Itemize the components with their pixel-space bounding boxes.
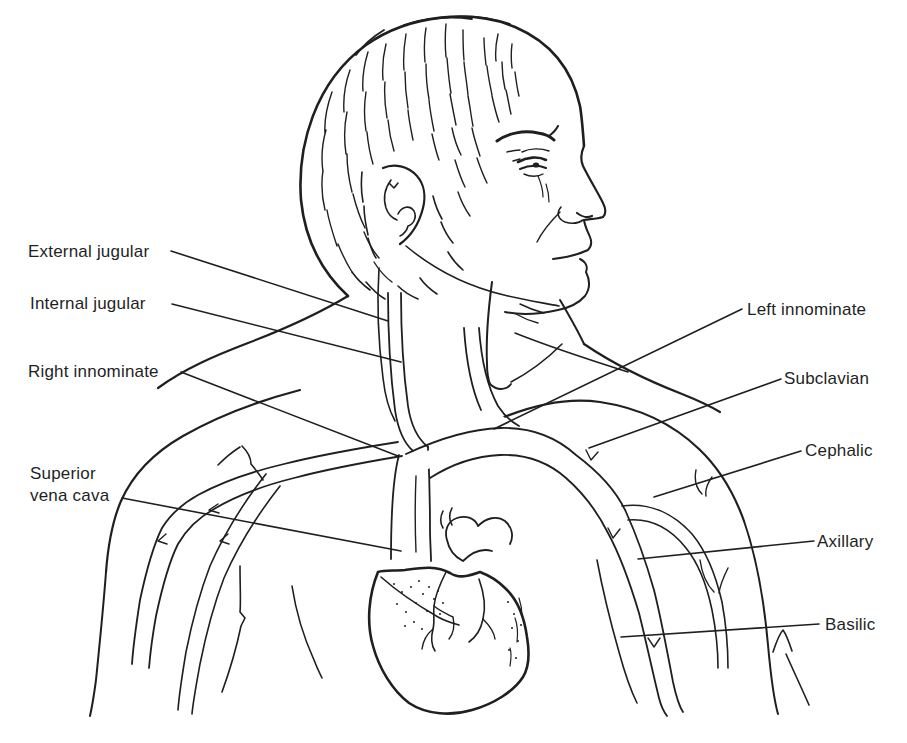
nostril — [577, 213, 592, 217]
leader-external-jugular — [171, 251, 388, 321]
label-right-innominate: Right innominate — [28, 362, 159, 381]
throat-line — [487, 282, 492, 384]
label-axillary: Axillary — [817, 532, 874, 551]
label-cephalic: Cephalic — [805, 441, 873, 460]
heart-drawing — [369, 508, 528, 714]
great-vessel-hatch-marks — [441, 508, 452, 528]
right-arm-outer-edge — [744, 521, 778, 714]
eye-iris — [533, 162, 539, 167]
ear-outer — [383, 166, 424, 244]
vena-cava-seam — [415, 476, 416, 552]
leader-internal-jugular — [172, 304, 401, 362]
right-subclavian-vein-lower-line — [149, 456, 402, 668]
leader-axillary — [638, 541, 814, 559]
label-left-innominate: Left innominate — [747, 300, 866, 319]
left-arm-inner-edge — [222, 566, 245, 692]
eyelid-crease — [522, 149, 549, 152]
label-subclavian: Subclavian — [784, 369, 869, 388]
leader-right-innominate — [181, 372, 398, 456]
label-internal-jugular: Internal jugular — [30, 294, 146, 313]
right-elbow-crease — [773, 630, 809, 705]
anatomy-diagram-page: External jugular Internal jugular Right … — [0, 0, 907, 743]
left-chest-fold — [292, 586, 322, 678]
great-vessels-stumps — [446, 517, 512, 561]
clavicle-notch — [490, 384, 511, 389]
eyebrow — [497, 132, 554, 141]
label-superior-vena-cava-line2: vena cava — [30, 486, 110, 505]
head-drawing — [300, 16, 605, 323]
eye-lash-line — [520, 166, 546, 169]
jawline — [406, 246, 559, 306]
label-external-jugular: External jugular — [28, 242, 149, 261]
label-superior-vena-cava-line1: Superior — [30, 464, 96, 483]
nasolabial-fold — [537, 212, 560, 242]
eyebrow-flick — [549, 126, 558, 136]
heart-outline — [369, 568, 528, 714]
face-profile-mouth-chin — [505, 220, 591, 314]
eye-upper-lid — [518, 158, 546, 162]
venous-anatomy-figure: External jugular Internal jugular Right … — [0, 0, 907, 743]
label-basilic: Basilic — [825, 615, 876, 634]
right-sternomastoid-line — [511, 344, 562, 382]
neck-base-contour — [515, 333, 628, 372]
ear-inner — [385, 180, 416, 236]
face-profile-nose — [581, 146, 605, 220]
leader-cephalic — [654, 451, 801, 497]
eye-lower-lid — [524, 174, 543, 176]
brow-dashes — [507, 150, 520, 161]
left-arm-outer-edge — [90, 572, 106, 716]
cheek-strokes — [538, 176, 549, 202]
